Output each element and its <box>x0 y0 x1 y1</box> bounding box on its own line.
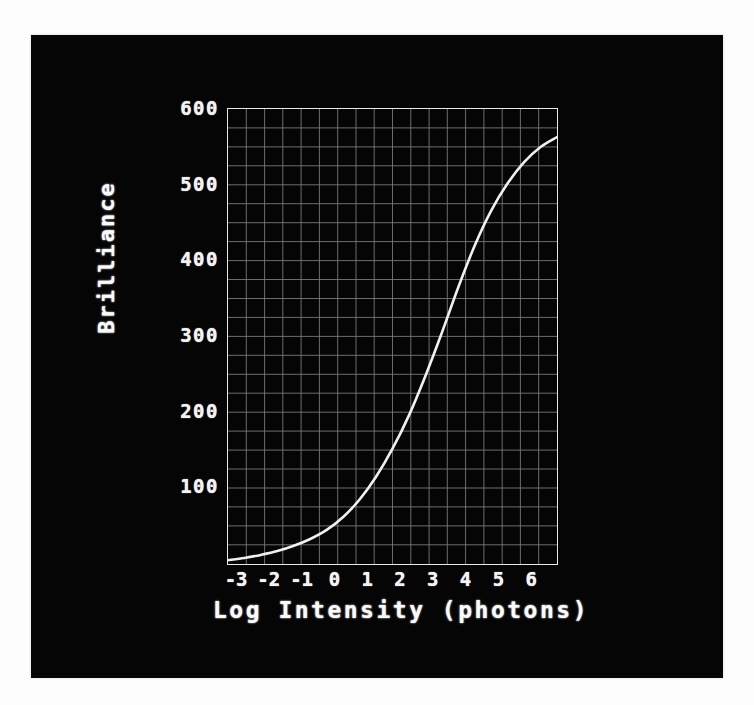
plot-area <box>227 108 558 565</box>
y-tick-label: 500 <box>153 173 219 195</box>
figure-screenshot: 600 500 400 300 200 100 -3 -2 -1 0 1 2 3… <box>0 0 754 705</box>
x-axis-ticks: -3 -2 -1 0 1 2 3 4 5 6 <box>227 568 556 598</box>
y-tick-label: 400 <box>153 248 219 270</box>
data-curve <box>228 109 557 564</box>
y-tick-label: 300 <box>153 324 219 346</box>
x-tick-label: 6 <box>511 568 551 590</box>
y-tick-label: 600 <box>153 97 219 119</box>
y-tick-label: 100 <box>153 475 219 497</box>
y-axis-label: Brilliance <box>94 138 119 378</box>
x-axis-label: Log Intensity (photons) <box>181 597 621 623</box>
y-tick-label: 200 <box>153 400 219 422</box>
y-axis-ticks: 600 500 400 300 200 100 <box>141 108 219 563</box>
photographic-plate: 600 500 400 300 200 100 -3 -2 -1 0 1 2 3… <box>31 35 723 678</box>
